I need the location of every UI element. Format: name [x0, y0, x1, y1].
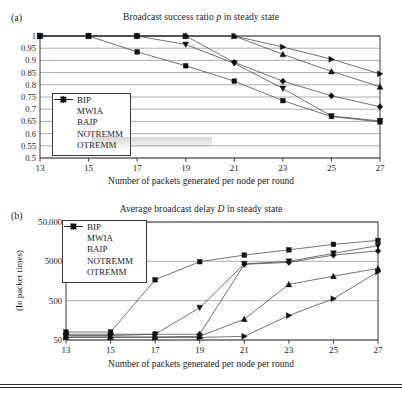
- data-point-bip: [287, 247, 292, 252]
- x-tick-label: 25: [327, 163, 337, 173]
- triangle-down-icon: [65, 244, 86, 255]
- y-tick-label: 0.9: [25, 55, 36, 65]
- data-point-otremm: [280, 44, 286, 50]
- series-line-otremm: [40, 36, 380, 74]
- x-tick-label: 21: [240, 345, 249, 355]
- data-point-bip: [197, 259, 202, 264]
- panel-a-legend: BIPMWIABAIPNOTREMMOTREMM: [52, 93, 131, 156]
- data-point-otremm: [329, 56, 335, 62]
- x-tick-label: 15: [84, 163, 94, 173]
- legend-label: BIP: [86, 222, 101, 232]
- data-point-mwia: [280, 78, 286, 84]
- y-tick-label: 0.7: [25, 104, 36, 114]
- figure-container: (a) Broadcast success ratio p in steady …: [0, 0, 402, 397]
- legend-item-baip[interactable]: BAIP: [53, 117, 130, 128]
- data-point-bip: [232, 79, 237, 84]
- diamond-icon: [65, 233, 86, 244]
- legend-label: MWIA: [86, 233, 113, 243]
- panel-b-xlabel: Number of packets generated per node per…: [0, 359, 402, 369]
- diamond-icon: [55, 106, 76, 117]
- legend-label: BIP: [76, 95, 91, 105]
- data-point-bip: [153, 277, 158, 282]
- legend-label: NOTREMM: [76, 129, 123, 139]
- x-tick-label: 13: [36, 163, 46, 173]
- data-point-otremm: [242, 333, 248, 339]
- legend-item-otremm[interactable]: OTREMM: [63, 267, 146, 278]
- y-tick-label: 5000: [45, 256, 62, 266]
- data-point-bip: [135, 50, 140, 55]
- x-tick-label: 21: [230, 163, 239, 173]
- x-tick-label: 19: [195, 345, 205, 355]
- y-tick-label: 0.75: [21, 92, 36, 102]
- triangle-up-icon: [55, 128, 76, 139]
- x-tick-label: 27: [376, 163, 386, 173]
- triangle-right-icon: [55, 140, 76, 151]
- y-tick-label: 50,000: [38, 217, 62, 227]
- x-tick-label: 13: [62, 345, 72, 355]
- legend-label: NOTREMM: [86, 256, 133, 266]
- legend-label: OTREMM: [76, 140, 117, 150]
- x-tick-label: 27: [374, 345, 384, 355]
- x-tick-label: 25: [329, 345, 339, 355]
- data-point-baip: [197, 305, 203, 311]
- x-tick-label: 19: [181, 163, 191, 173]
- data-point-baip: [280, 86, 286, 92]
- legend-item-notremm[interactable]: NOTREMM: [53, 128, 130, 139]
- triangle-right-icon: [65, 267, 86, 278]
- panel-b-plot: 50500500050,0001315171921232527: [0, 196, 402, 381]
- y-tick-label: 50: [53, 335, 62, 345]
- triangle-up-icon: [65, 255, 86, 266]
- data-point-notremm: [241, 316, 247, 322]
- y-tick-label: 0.95: [21, 43, 36, 53]
- data-point-bip: [183, 63, 188, 68]
- footer-rule-bottom: [0, 387, 402, 388]
- panel-a-xlabel: Number of packets generated per node per…: [0, 176, 402, 186]
- y-tick-label: 500: [49, 296, 62, 306]
- y-tick-label: 0.85: [21, 68, 36, 78]
- legend-item-mwia[interactable]: MWIA: [53, 105, 130, 116]
- legend-item-otremm[interactable]: OTREMM: [53, 140, 130, 151]
- data-point-bip: [331, 242, 336, 247]
- x-tick-label: 17: [133, 163, 143, 173]
- y-tick-label: 0.65: [21, 116, 36, 126]
- data-point-notremm: [328, 68, 334, 74]
- legend-item-notremm[interactable]: NOTREMM: [63, 255, 146, 266]
- data-point-mwia: [329, 93, 335, 99]
- data-point-bip: [242, 253, 247, 258]
- y-tick-label: 0.55: [21, 141, 36, 151]
- x-tick-label: 23: [284, 345, 294, 355]
- data-point-baip: [183, 42, 189, 48]
- y-tick-label: 1: [32, 31, 36, 41]
- x-tick-label: 15: [106, 345, 116, 355]
- data-point-notremm: [280, 51, 286, 57]
- legend-label: OTREMM: [86, 267, 127, 277]
- data-point-otremm: [286, 312, 292, 318]
- panel-a: (a) Broadcast success ratio p in steady …: [0, 0, 402, 196]
- y-tick-label: 0.6: [25, 129, 36, 139]
- footer-rule-top: [0, 384, 402, 385]
- triangle-down-icon: [55, 117, 76, 128]
- data-point-bip: [281, 98, 286, 103]
- legend-label: MWIA: [76, 106, 103, 116]
- panel-b-legend: BIPMWIABAIPNOTREMMOTREMM: [62, 220, 147, 283]
- x-tick-label: 23: [278, 163, 288, 173]
- legend-item-baip[interactable]: BAIP: [63, 244, 146, 255]
- legend-item-mwia[interactable]: MWIA: [63, 232, 146, 243]
- y-tick-label: 0.8: [25, 80, 36, 90]
- legend-label: BAIP: [86, 244, 108, 254]
- x-tick-label: 17: [151, 345, 161, 355]
- y-tick-label: 0.5: [25, 153, 36, 163]
- legend-label: BAIP: [76, 117, 98, 127]
- data-point-bip: [376, 238, 381, 243]
- panel-b: (b) Average broadcast delay D in steady …: [0, 196, 402, 381]
